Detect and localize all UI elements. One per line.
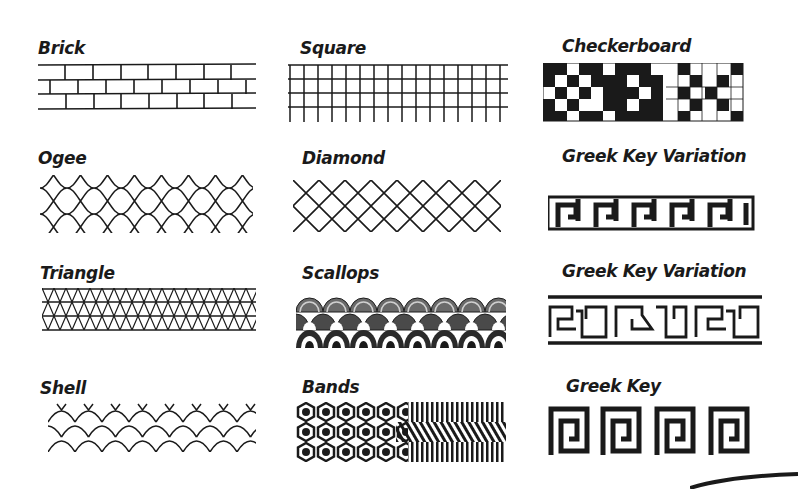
greek-key-pattern [547,405,757,459]
shell-pattern [48,402,258,454]
label-greek-key: Greek Key [566,376,661,396]
greek-key-variation-1-pattern [548,195,756,231]
label-bands: Bands [302,377,359,397]
label-scallops: Scallops [302,263,379,283]
checkerboard-pattern [543,63,748,123]
label-checkerboard: Checkerboard [562,36,691,56]
label-triangle: Triangle [40,263,115,283]
label-diamond: Diamond [302,148,385,168]
ogee-pattern [40,175,255,235]
brick-pattern [38,62,258,112]
label-shell: Shell [40,378,86,398]
triangle-pattern [42,288,258,334]
bands-pattern [296,402,508,464]
label-greek-key-variation-2: Greek Key Variation [562,261,746,281]
diamond-pattern [293,180,503,234]
label-greek-key-variation-1: Greek Key Variation [562,146,746,166]
label-brick: Brick [38,38,85,58]
scallops-pattern [296,290,508,350]
greek-key-variation-2-pattern [546,293,764,347]
label-ogee: Ogee [38,148,86,168]
square-pattern [288,62,510,124]
label-square: Square [300,38,366,58]
ink-stroke-mark [690,472,800,489]
